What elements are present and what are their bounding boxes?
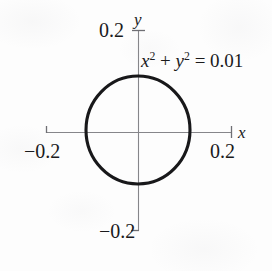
equation-y-variable: y: [176, 50, 184, 71]
equation-annotation: x2 + y2 = 0.01: [141, 51, 243, 70]
y-axis-tick-label-bottom: −0.2: [99, 221, 135, 241]
equation-right-hand-side: = 0.01: [195, 50, 244, 71]
math-figure: 0.2 y x2 + y2 = 0.01 −0.2 x 0.2 −0.2: [0, 0, 272, 271]
equation-plus-sign: +: [160, 50, 171, 71]
equation-y-exponent: 2: [184, 50, 190, 63]
x-axis-label: x: [238, 124, 246, 141]
x-axis-tick-label-right: 0.2: [210, 141, 235, 161]
y-axis-tick-label-top: 0.2: [99, 20, 124, 40]
y-axis-label: y: [134, 11, 142, 28]
x-axis-tick-label-left: −0.2: [24, 141, 60, 161]
coordinate-plot: [0, 0, 272, 271]
equation-x-exponent: 2: [149, 50, 155, 63]
